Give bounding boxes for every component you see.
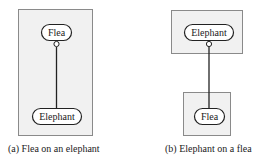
panel-a-caption: (a) Flea on an elephant [8, 143, 100, 154]
panel-a-bottom-node-label: Elephant [39, 111, 75, 122]
panel-b-top-node-label: Elephant [191, 27, 227, 38]
panel-b-connector-circle [206, 41, 211, 46]
panel-a-connector-circle [54, 41, 59, 46]
panel-a: Flea Elephant [19, 10, 93, 136]
panel-b-bottom-node-label: Flea [201, 111, 219, 122]
panel-b: Elephant Flea [172, 11, 243, 136]
diagram-canvas: Flea Elephant Elephant Flea [0, 0, 264, 160]
panel-a-top-node-label: Flea [48, 27, 66, 38]
panel-b-caption: (b) Elephant on a flea [165, 143, 252, 154]
